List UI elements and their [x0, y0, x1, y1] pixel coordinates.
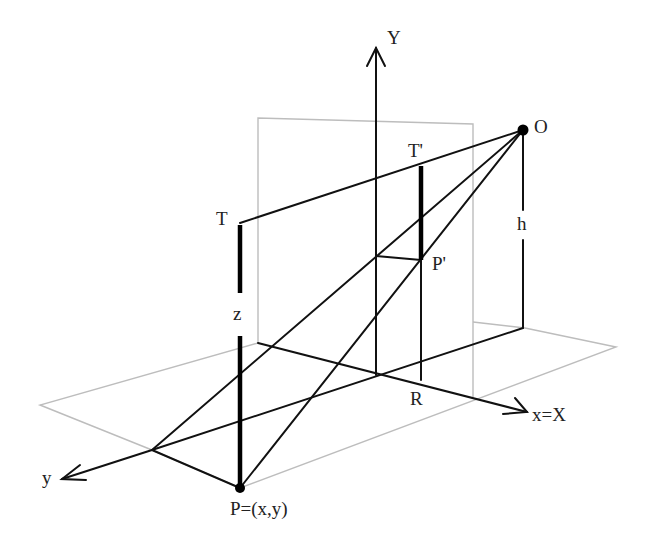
- label-z: z: [233, 303, 241, 324]
- label-x-axis: x=X: [532, 404, 566, 425]
- label-T-prime: T': [408, 140, 423, 161]
- line-Pprime-Yaxis: [376, 256, 421, 260]
- label-P: P=(x,y): [230, 498, 288, 520]
- perspective-diagram: Y O T' T h P' z R x=X y P=(x,y): [0, 0, 650, 551]
- point-O: [518, 125, 529, 136]
- line-ynode-P: [152, 450, 240, 488]
- label-P-prime: P': [432, 253, 446, 274]
- label-Y: Y: [387, 27, 401, 48]
- label-h: h: [517, 213, 527, 234]
- ground-plane-outline: [40, 322, 616, 488]
- ray-O-T: [240, 130, 523, 223]
- label-T: T: [216, 208, 228, 229]
- diagram-canvas: Y O T' T h P' z R x=X y P=(x,y): [0, 0, 650, 551]
- ground-line: [152, 328, 523, 450]
- label-R: R: [410, 388, 423, 409]
- label-O: O: [534, 116, 548, 137]
- label-y-axis: y: [42, 467, 52, 488]
- point-P: [235, 483, 245, 493]
- y-axis-line: [62, 450, 152, 479]
